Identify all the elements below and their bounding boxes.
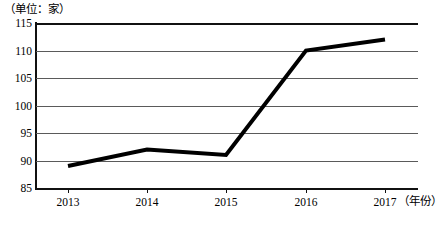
gridline-110: [36, 51, 418, 52]
gridline-95: [36, 133, 418, 134]
y-tick-label: 95: [2, 128, 32, 140]
x-tick-2016: [306, 188, 307, 193]
x-tick-label-2015: 2015: [215, 196, 238, 209]
gridline-90: [36, 161, 418, 162]
x-axis-title: （年份）: [398, 195, 440, 208]
gridline-115: [36, 23, 418, 25]
x-tick-label-2013: 2013: [57, 196, 80, 209]
line-chart: （单位：家） 115 110 105 100 95 90 85 2013 201…: [0, 0, 440, 227]
x-tick-label-2017: 2017: [374, 196, 397, 209]
y-tick-label: 115: [2, 18, 32, 30]
x-tick-2015: [226, 188, 227, 193]
plot-area: [36, 23, 418, 188]
x-tick-2014: [147, 188, 148, 193]
y-tick-label: 105: [2, 73, 32, 85]
gridline-100: [36, 106, 418, 107]
x-tick-label-2016: 2016: [295, 196, 318, 209]
x-tick-2017: [385, 188, 386, 193]
gridline-105: [36, 78, 418, 79]
y-tick-label: 100: [2, 101, 32, 113]
y-tick-label: 90: [2, 156, 32, 168]
x-tick-label-2014: 2014: [136, 196, 159, 209]
y-tick-label: 85: [2, 183, 32, 195]
x-tick-2013: [68, 188, 69, 193]
y-axis-labels: 115 110 105 100 95 90 85: [0, 0, 32, 227]
y-tick-label: 110: [2, 46, 32, 58]
